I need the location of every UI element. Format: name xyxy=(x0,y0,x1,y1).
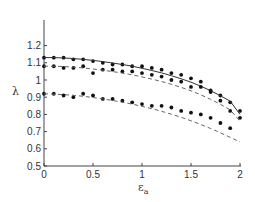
data-point xyxy=(189,85,193,89)
data-point xyxy=(111,68,115,72)
y-tick-label: 0.9 xyxy=(27,92,41,103)
data-point xyxy=(219,99,223,103)
y-tick-label: 1.2 xyxy=(27,40,41,51)
data-point xyxy=(199,113,203,117)
data-point xyxy=(199,85,203,89)
data-point xyxy=(228,109,232,113)
data-point xyxy=(189,76,193,80)
data-point xyxy=(179,80,183,84)
y-tick-label: 0.8 xyxy=(27,109,41,120)
data-point xyxy=(150,104,154,108)
data-point xyxy=(140,102,144,106)
data-point xyxy=(91,94,95,98)
data-point xyxy=(150,66,154,70)
x-tick-label: 1 xyxy=(139,169,145,180)
x-tick-label: 0.5 xyxy=(86,169,100,180)
x-tick-label: 2 xyxy=(237,169,243,180)
data-point xyxy=(160,104,164,108)
x-axis-label: εa xyxy=(138,181,149,196)
data-point xyxy=(62,94,66,98)
data-point xyxy=(150,73,154,77)
y-axis-label: λ xyxy=(12,85,19,98)
y-tick-label: 0.5 xyxy=(27,161,41,172)
data-point xyxy=(228,126,232,130)
data-point xyxy=(160,68,164,72)
data-point xyxy=(219,121,223,125)
data-point xyxy=(81,92,85,96)
data-series xyxy=(42,56,242,142)
x-tick-label: 0 xyxy=(41,169,47,180)
data-point xyxy=(160,75,164,79)
y-tick-label: 0.7 xyxy=(27,126,41,137)
data-point xyxy=(91,59,95,63)
y-tick-label: 1.1 xyxy=(27,57,41,68)
data-point xyxy=(140,71,144,75)
data-point xyxy=(170,106,174,110)
data-point xyxy=(209,116,213,120)
data-point xyxy=(170,78,174,82)
data-point xyxy=(189,111,193,115)
x-tick-label: 1.5 xyxy=(184,169,198,180)
data-point xyxy=(130,70,134,74)
data-point xyxy=(179,109,183,113)
data-point xyxy=(170,71,174,75)
data-point xyxy=(179,73,183,77)
data-point xyxy=(209,90,213,94)
data-point xyxy=(62,66,66,70)
chart-canvas: 0.50.60.70.80.911.11.2 00.511.52 λ εa xyxy=(0,0,255,202)
y-tick-label: 0.6 xyxy=(27,143,41,154)
y-tick-label: 1 xyxy=(35,75,41,86)
data-point xyxy=(91,71,95,75)
data-point xyxy=(199,80,203,84)
x-axis-label-sub: a xyxy=(144,187,149,196)
